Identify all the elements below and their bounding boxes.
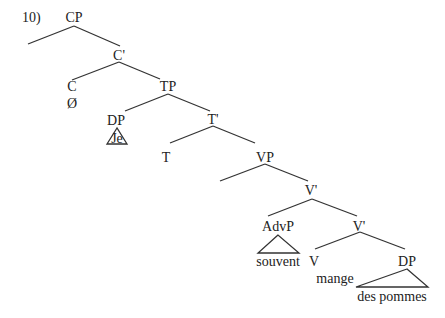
branch-line xyxy=(268,199,312,216)
node-je: Je xyxy=(111,132,123,146)
dp-obj-triangle xyxy=(356,269,428,287)
node-vbar-1: V' xyxy=(305,184,318,198)
node-des-pommes: des pommes xyxy=(357,290,427,304)
branch-line xyxy=(220,164,265,181)
tree-branches xyxy=(0,0,445,318)
node-vp: VP xyxy=(256,151,274,165)
branch-line xyxy=(360,232,405,249)
branch-line xyxy=(119,62,160,79)
node-t: T xyxy=(162,151,171,165)
node-dp-subj: DP xyxy=(107,114,125,128)
node-tbar: T' xyxy=(207,113,218,127)
branch-line xyxy=(265,164,308,181)
node-v: V xyxy=(309,255,319,269)
syntax-tree-diagram: 10) CPC'CØTPDPJeT'TVPV'AdvPsouventV'Vman… xyxy=(0,0,445,318)
branch-line xyxy=(170,126,213,143)
example-number: 10) xyxy=(22,11,41,25)
node-c: C xyxy=(67,80,76,94)
node-cp: CP xyxy=(65,11,82,25)
branch-line xyxy=(28,26,74,44)
node-souvent: souvent xyxy=(256,255,300,269)
node-vbar-2: V' xyxy=(353,220,366,234)
advp-triangle xyxy=(258,235,299,253)
branch-line xyxy=(213,126,255,143)
branch-line xyxy=(168,94,210,111)
node-cbar: C' xyxy=(113,49,125,63)
node-mange: mange xyxy=(316,272,353,286)
node-advp: AdvP xyxy=(262,220,294,234)
node-dp-obj: DP xyxy=(398,255,416,269)
branch-line xyxy=(315,232,360,249)
branch-line xyxy=(72,62,119,80)
node-tp: TP xyxy=(160,80,176,94)
node-c-null: Ø xyxy=(67,97,77,111)
branch-line xyxy=(312,199,357,216)
branch-line xyxy=(74,26,120,46)
branch-line xyxy=(125,94,168,111)
